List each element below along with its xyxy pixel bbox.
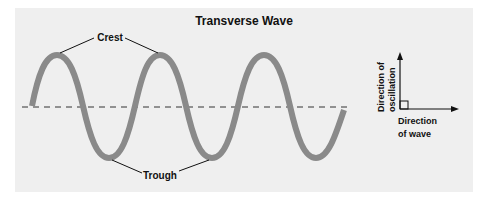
arrow-up-icon: [397, 52, 403, 60]
arrow-right-icon: [451, 106, 459, 112]
transverse-wave-diagram: Transverse Wave Crest Trough Direction o…: [0, 0, 489, 202]
diagram-title: Transverse Wave: [195, 14, 293, 28]
wave-direction-label-line2: of wave: [398, 129, 431, 139]
crest-leader-right: [125, 38, 158, 53]
oscillation-label-line1: Direction of: [376, 61, 386, 112]
trough-label: Trough: [143, 170, 177, 181]
trough-leader-right: [179, 160, 209, 171]
trough-leader-left: [112, 160, 142, 173]
crest-label: Crest: [97, 32, 123, 43]
wave-direction-label-line1: Direction: [398, 116, 437, 126]
right-angle-icon: [400, 101, 408, 109]
oscillation-label-line2: oscillation: [387, 67, 397, 112]
crest-leader-left: [60, 38, 94, 53]
